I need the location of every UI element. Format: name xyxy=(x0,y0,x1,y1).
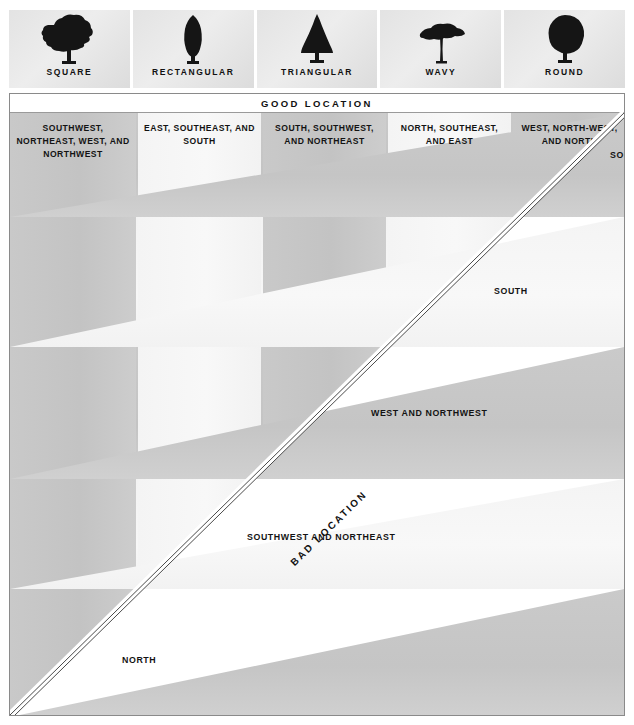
tree-shape-cell-round: ROUND xyxy=(504,10,625,88)
tree-shape-cell-rectangular: RECTANGULAR xyxy=(133,10,254,88)
bad-row-label-triangular: WEST AND NORTHWEST xyxy=(371,407,488,419)
round-tree-icon xyxy=(534,12,596,66)
tree-shape-label: TRIANGULAR xyxy=(281,67,353,77)
good-location-label: GOOD LOCATION xyxy=(261,98,373,109)
bad-row-label-wavy: SOUTH xyxy=(494,285,528,297)
tree-shape-label: ROUND xyxy=(545,67,584,77)
tree-shape-strip: SQUARE RECTANGULAR TRIANGULAR WAVY xyxy=(0,0,634,92)
tree-shape-cell-square: SQUARE xyxy=(9,10,130,88)
good-column-header-round: WEST, NORTH-WEST, AND NORTH xyxy=(513,113,625,148)
tree-shape-label: WAVY xyxy=(425,67,456,77)
good-column-header-square: SOUTHWEST, NORTHEAST, WEST, AND NORTHWES… xyxy=(10,113,136,161)
location-matrix: GOOD LOCATION SOUTHWEST, NORTHEAST, WEST… xyxy=(9,93,625,716)
wavy-tree-icon xyxy=(410,12,472,66)
good-column-header-wavy: NORTH, SOUTHEAST, AND EAST xyxy=(388,113,511,148)
good-column-header-triangular: SOUTH, SOUTHWEST, AND NORTHEAST xyxy=(263,113,386,148)
good-column-header-rectangular: EAST, SOUTHEAST, AND SOUTH xyxy=(138,113,261,148)
bad-row-label-round: SOU… AND… xyxy=(610,149,625,161)
tree-shape-label: SQUARE xyxy=(46,67,92,77)
bad-row-label-square: NORTH xyxy=(122,654,156,666)
tree-shape-label: RECTANGULAR xyxy=(152,67,235,77)
tree-shape-cell-wavy: WAVY xyxy=(380,10,501,88)
rectangular-tree-icon xyxy=(162,12,224,66)
tree-shape-cell-triangular: TRIANGULAR xyxy=(257,10,378,88)
triangular-tree-icon xyxy=(286,12,348,66)
square-tree-icon xyxy=(38,12,100,66)
good-location-header: GOOD LOCATION xyxy=(10,94,624,113)
